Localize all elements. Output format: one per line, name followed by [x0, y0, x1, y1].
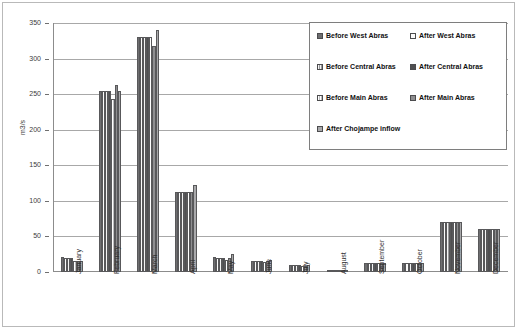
legend-label: Before Main Abras [326, 94, 388, 101]
y-tick-label: 150 [29, 161, 41, 168]
y-axis-title: m3/s [19, 98, 26, 158]
legend-swatch [410, 95, 416, 101]
x-tick-label: October [416, 249, 423, 274]
x-tick-label: February [113, 246, 120, 274]
chart-legend: Before West AbrasAfter West AbrasBefore … [309, 22, 507, 150]
legend-label: After Central Abras [419, 63, 483, 70]
legend-entry: Before Main Abras [317, 94, 388, 101]
bar-chart: 050100150200250300350 m3/s JanuaryFebrua… [0, 0, 518, 330]
y-tick-label: 50 [33, 232, 41, 239]
x-tick-label: July [302, 262, 309, 274]
legend-label: After Main Abras [419, 94, 475, 101]
y-tick-mark [45, 201, 49, 202]
legend-entry: After West Abras [410, 32, 475, 39]
y-tick-mark [45, 23, 49, 24]
y-tick-label: 0 [37, 268, 41, 275]
legend-entry: Before West Abras [317, 32, 388, 39]
x-tick-label: December [492, 242, 499, 274]
y-tick-mark [45, 272, 49, 273]
x-tick-label: August [340, 252, 347, 274]
legend-row: Before Central AbrasAfter Central Abras [310, 63, 506, 93]
bar [156, 30, 159, 272]
legend-swatch [317, 126, 323, 132]
x-tick-label: September [378, 240, 385, 274]
x-tick-label: January [75, 249, 82, 274]
bar-group [289, 23, 311, 272]
x-tick-label: March [151, 255, 158, 274]
x-tick-label: May [227, 261, 234, 274]
x-tick-label: April [189, 260, 196, 274]
y-tick-label: 250 [29, 90, 41, 97]
y-tick-label: 300 [29, 55, 41, 62]
bar [193, 185, 196, 272]
y-tick-label: 350 [29, 19, 41, 26]
bar-group [213, 23, 235, 272]
legend-entry: After Central Abras [410, 63, 483, 70]
legend-label: After West Abras [419, 32, 475, 39]
y-tick-mark [45, 165, 49, 166]
x-tick-label: June [265, 259, 272, 274]
legend-entry: After Main Abras [410, 94, 475, 101]
bar-group [99, 23, 121, 272]
legend-swatch [410, 64, 416, 70]
legend-label: Before West Abras [326, 32, 388, 39]
legend-row: Before Main AbrasAfter Main Abras [310, 94, 506, 124]
x-tick-label: November [454, 242, 461, 274]
bar-group [175, 23, 197, 272]
y-tick-mark [45, 94, 49, 95]
y-tick-mark [45, 130, 49, 131]
bar-group [61, 23, 83, 272]
legend-swatch [317, 64, 323, 70]
legend-entry: After Chojampe inflow [317, 125, 400, 132]
legend-label: After Chojampe inflow [326, 125, 400, 132]
bar-group [137, 23, 159, 272]
y-tick-mark [45, 59, 49, 60]
legend-swatch [317, 95, 323, 101]
legend-row: After Chojampe inflow [310, 125, 506, 155]
bar-group [251, 23, 273, 272]
x-axis-labels: JanuaryFebruaryMarchAprilMayJuneJulyAugu… [53, 274, 508, 328]
legend-swatch [410, 33, 416, 39]
legend-row: Before West AbrasAfter West Abras [310, 32, 506, 62]
legend-label: Before Central Abras [326, 63, 396, 70]
y-tick-mark [45, 236, 49, 237]
y-tick-label: 200 [29, 126, 41, 133]
legend-entry: Before Central Abras [317, 63, 396, 70]
legend-swatch [317, 33, 323, 39]
bar [118, 91, 121, 272]
y-tick-label: 100 [29, 197, 41, 204]
